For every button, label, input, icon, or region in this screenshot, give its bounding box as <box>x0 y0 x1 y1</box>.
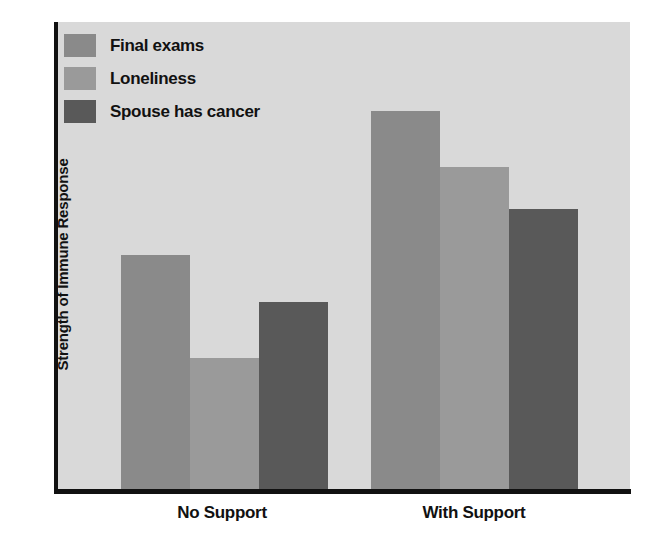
legend-item-label: Loneliness <box>110 69 196 89</box>
bar-with-support-spouse-has-cancer <box>509 209 578 489</box>
legend-swatch-icon <box>64 34 96 57</box>
legend-item-spouse-has-cancer: Spouse has cancer <box>64 100 260 123</box>
legend-item-label: Spouse has cancer <box>110 102 260 122</box>
bar-with-support-loneliness <box>440 167 509 489</box>
legend-swatch-icon <box>64 67 96 90</box>
bar-no-support-spouse-has-cancer <box>259 302 328 489</box>
bar-chart-figure: Strength of Immune Response Final exams … <box>0 0 667 551</box>
x-tick-label-with-support: With Support <box>423 503 526 523</box>
legend-item-final-exams: Final exams <box>64 34 260 57</box>
chart-legend: Final exams Loneliness Spouse has cancer <box>64 34 260 123</box>
bar-no-support-loneliness <box>190 358 259 489</box>
bar-no-support-final-exams <box>121 255 190 489</box>
x-axis-line <box>54 489 631 494</box>
legend-swatch-icon <box>64 100 96 123</box>
legend-item-label: Final exams <box>110 36 204 56</box>
x-tick-label-no-support: No Support <box>177 503 267 523</box>
y-axis-title: Strength of Immune Response <box>54 115 71 415</box>
legend-item-loneliness: Loneliness <box>64 67 260 90</box>
bar-with-support-final-exams <box>371 111 440 489</box>
